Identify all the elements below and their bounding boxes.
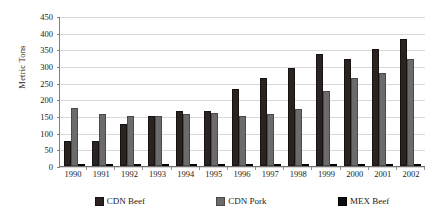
- x-axis-tick-label: 2001: [369, 169, 397, 179]
- bar[interactable]: [351, 78, 358, 166]
- bar[interactable]: [379, 73, 386, 166]
- bar-group: [397, 17, 425, 166]
- y-axis-tick-mark: [57, 84, 60, 85]
- legend-item[interactable]: CDN Beef: [95, 196, 145, 206]
- bar[interactable]: [295, 109, 302, 166]
- legend-label: CDN Beef: [107, 196, 145, 206]
- bar[interactable]: [372, 49, 379, 166]
- x-axis-tick-label: 2002: [397, 169, 425, 179]
- legend: CDN BeefCDN PorkMEX Beef: [59, 196, 425, 206]
- bar-groups: [60, 17, 425, 166]
- bar[interactable]: [106, 164, 113, 166]
- bar[interactable]: [316, 54, 323, 166]
- bar[interactable]: [302, 164, 309, 166]
- bar[interactable]: [344, 59, 351, 166]
- legend-label: CDN Pork: [228, 196, 266, 206]
- bar-group: [144, 17, 172, 166]
- x-axis-tick-label: 1998: [284, 169, 312, 179]
- x-axis-tick-label: 1994: [172, 169, 200, 179]
- bar-group: [228, 17, 256, 166]
- bar-chart: Metric Tons 450400350300250200150100500 …: [0, 0, 434, 221]
- bar[interactable]: [71, 108, 78, 166]
- bar[interactable]: [92, 141, 99, 166]
- y-axis-tick-mark: [57, 100, 60, 101]
- bar[interactable]: [330, 164, 337, 166]
- x-axis-tick-label: 2000: [341, 169, 369, 179]
- bar[interactable]: [239, 116, 246, 166]
- bar[interactable]: [260, 78, 267, 166]
- y-axis-tick-label: 0: [25, 163, 53, 172]
- bar[interactable]: [407, 59, 414, 166]
- x-axis-tick-label: 1992: [115, 169, 143, 179]
- legend-item[interactable]: CDN Pork: [216, 196, 266, 206]
- bar-group: [116, 17, 144, 166]
- bar[interactable]: [64, 141, 71, 166]
- bar[interactable]: [288, 68, 295, 166]
- legend-swatch-icon: [95, 197, 104, 206]
- y-axis-tick-mark: [57, 134, 60, 135]
- x-axis-tick-labels: 1990199119921993199419951996199719981999…: [59, 169, 425, 179]
- bar[interactable]: [183, 114, 190, 166]
- y-axis-tick-label: 50: [25, 146, 53, 155]
- bar-group: [369, 17, 397, 166]
- bar-group: [60, 17, 88, 166]
- y-axis-tick-label: 100: [25, 130, 53, 139]
- bar[interactable]: [162, 164, 169, 166]
- bar[interactable]: [414, 164, 421, 166]
- y-axis-tick-label: 400: [25, 30, 53, 39]
- y-axis-tick-label: 300: [25, 63, 53, 72]
- y-axis-tick-mark: [57, 50, 60, 51]
- bar-group: [200, 17, 228, 166]
- plot-area: [59, 17, 425, 167]
- bar[interactable]: [323, 91, 330, 166]
- bar[interactable]: [386, 164, 393, 166]
- y-axis-tick-label: 250: [25, 80, 53, 89]
- legend-label: MEX Beef: [350, 196, 389, 206]
- bar-group: [285, 17, 313, 166]
- bar[interactable]: [267, 114, 274, 166]
- bar[interactable]: [204, 111, 211, 166]
- bar[interactable]: [400, 39, 407, 166]
- bar[interactable]: [232, 89, 239, 166]
- x-axis-tick-label: 1997: [256, 169, 284, 179]
- y-axis-tick-label: 200: [25, 96, 53, 105]
- bar[interactable]: [120, 124, 127, 166]
- x-axis-tick-label: 1991: [87, 169, 115, 179]
- legend-swatch-icon: [216, 197, 225, 206]
- y-axis-tick-mark: [57, 117, 60, 118]
- bar[interactable]: [134, 164, 141, 166]
- bar-group: [313, 17, 341, 166]
- bar[interactable]: [155, 116, 162, 166]
- x-axis-tick-label: 1996: [228, 169, 256, 179]
- y-axis-tick-mark: [57, 150, 60, 151]
- bar-group: [341, 17, 369, 166]
- bar[interactable]: [99, 114, 106, 166]
- y-axis-tick-label: 150: [25, 113, 53, 122]
- y-axis-tick-mark: [57, 34, 60, 35]
- bar[interactable]: [190, 164, 197, 166]
- legend-item[interactable]: MEX Beef: [338, 196, 389, 206]
- bar[interactable]: [78, 164, 85, 166]
- bar-group: [257, 17, 285, 166]
- bar[interactable]: [211, 113, 218, 166]
- legend-swatch-icon: [338, 197, 347, 206]
- x-axis-tick-label: 1990: [59, 169, 87, 179]
- bar[interactable]: [246, 164, 253, 166]
- y-axis-tick-label: 450: [25, 13, 53, 22]
- bar[interactable]: [148, 116, 155, 166]
- y-axis-tick-mark: [57, 67, 60, 68]
- bar-group: [88, 17, 116, 166]
- bar-group: [172, 17, 200, 166]
- x-axis-tick-label: 1995: [200, 169, 228, 179]
- x-axis-tick-label: 1993: [143, 169, 171, 179]
- y-axis-tick-label: 350: [25, 46, 53, 55]
- bar[interactable]: [218, 164, 225, 166]
- bar[interactable]: [176, 111, 183, 166]
- bar[interactable]: [127, 116, 134, 166]
- bar[interactable]: [358, 164, 365, 166]
- x-axis-tick-label: 1999: [312, 169, 340, 179]
- y-axis-tick-mark: [57, 17, 60, 18]
- bar[interactable]: [274, 164, 281, 166]
